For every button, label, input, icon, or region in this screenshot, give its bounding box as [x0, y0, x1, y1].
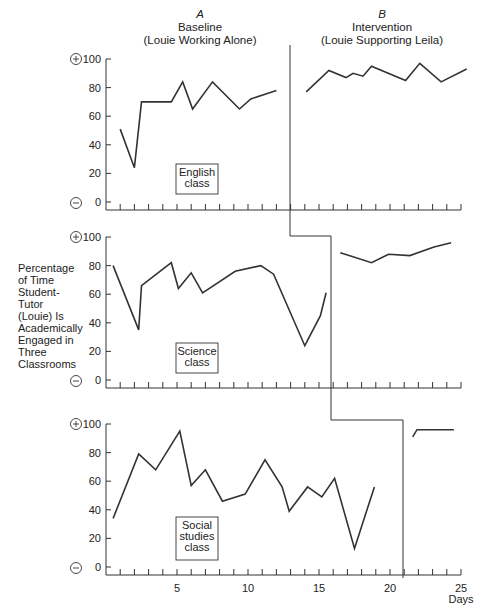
svg-text:class: class [184, 356, 210, 368]
phase-change-line [290, 45, 403, 578]
y-axis-label-line: Academically [18, 322, 98, 334]
y-tick-label: 20 [89, 532, 101, 544]
svg-text:class: class [184, 177, 210, 189]
y-tick-label: 40 [89, 504, 101, 516]
x-tick-label: 5 [174, 582, 180, 594]
y-tick-label: 0 [95, 374, 101, 386]
series-line-baseline [113, 431, 374, 548]
phase-headers: A Baseline (Louie Working Alone) B Inter… [144, 8, 444, 46]
y-tick-label: 100 [83, 418, 101, 430]
y-axis-label-line: Classrooms [18, 358, 98, 370]
y-tick-label: 0 [95, 561, 101, 573]
minus-circle-icon [71, 563, 82, 574]
y-tick-label: 100 [83, 53, 101, 65]
x-tick-label: 20 [384, 582, 396, 594]
y-axis-label-line: Student- [18, 286, 98, 298]
y-axis-label-line: Engaged in [18, 334, 98, 346]
y-tick-label: 40 [89, 139, 101, 151]
panel-science-class: 020406080100Scienceclass [71, 231, 462, 388]
y-axis-label-line: of Time [18, 274, 98, 286]
panel-english-class: 020406080100Englishclass [71, 53, 467, 210]
plus-circle-icon [71, 419, 82, 430]
series-line-baseline [120, 82, 276, 168]
y-tick-label: 0 [95, 196, 101, 208]
phase-b-subtitle: (Louie Supporting Leila) [321, 34, 443, 46]
phase-b-name: Intervention [352, 21, 412, 33]
panel-label-box: Scienceclass [176, 343, 218, 373]
series-line-intervention [306, 63, 467, 92]
phase-b-letter: B [378, 8, 386, 20]
minus-circle-icon [71, 376, 82, 387]
y-tick-label: 100 [83, 231, 101, 243]
series-line-intervention [413, 430, 454, 437]
y-tick-label: 80 [89, 447, 101, 459]
y-axis-label: Percentageof TimeStudent-Tutor(Louie) Is… [18, 262, 98, 370]
svg-text:class: class [184, 541, 210, 553]
panel-label-box: Englishclass [176, 164, 218, 194]
y-tick-label: 80 [89, 82, 101, 94]
y-axis-label-line: (Louie) Is [18, 310, 98, 322]
phase-a-subtitle: (Louie Working Alone) [144, 34, 257, 46]
y-axis-label-line: Three [18, 346, 98, 358]
plus-circle-icon [71, 54, 82, 65]
phase-a-letter: A [195, 8, 204, 20]
y-tick-label: 60 [89, 110, 101, 122]
y-axis-label-line: Percentage [18, 262, 98, 274]
x-tick-labels: 510152025 [174, 582, 467, 594]
phase-a-name: Baseline [178, 21, 222, 33]
x-tick-label: 15 [313, 582, 325, 594]
minus-circle-icon [71, 198, 82, 209]
x-axis-label: Days [448, 593, 474, 605]
y-tick-label: 20 [89, 167, 101, 179]
y-tick-label: 60 [89, 475, 101, 487]
y-axis-label-line: Tutor [18, 298, 98, 310]
x-tick-label: 10 [242, 582, 254, 594]
series-line-baseline [113, 263, 326, 346]
panel-social-studies-class: 020406080100Socialstudiesclass [71, 418, 462, 575]
panel-label-box: Socialstudiesclass [176, 517, 218, 560]
series-line-intervention [340, 243, 451, 263]
plus-circle-icon [71, 232, 82, 243]
